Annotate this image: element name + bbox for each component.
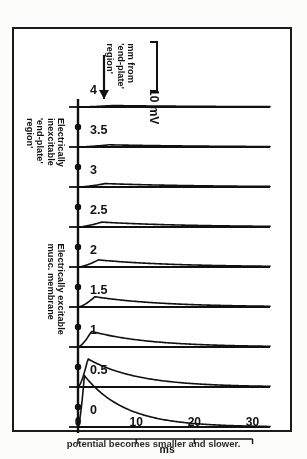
- trace-distance-label: 1: [90, 323, 97, 337]
- trace-distance-label: 2.5: [90, 203, 107, 217]
- caption-fragment: potential becomes smaller and slower.: [0, 438, 307, 449]
- distance-arrow-head: [99, 90, 109, 99]
- trace-distance-label: 4: [90, 83, 97, 97]
- scale-bar: [150, 42, 157, 91]
- region-inexcitable-line1: Electrically: [56, 118, 66, 167]
- electrode-marker: [75, 204, 81, 210]
- trace-distance-label: 0.5: [90, 363, 107, 377]
- epp-trace: [78, 332, 270, 347]
- distance-axis-line2: 'end-plate': [116, 43, 126, 89]
- region-inexcitable-line3: 'end-plate': [35, 118, 45, 164]
- region-inexcitable-line4: region': [25, 118, 35, 149]
- trace-distance-label: 0: [90, 403, 97, 417]
- electrode-marker: [75, 324, 81, 330]
- region-excitable-line2: musc. membrane: [46, 244, 56, 320]
- plot-area: 010203000.511.522.533.54 ms 10 mV mm fro…: [0, 0, 307, 459]
- epp-trace: [78, 260, 270, 267]
- electrode-marker: [75, 284, 81, 290]
- distance-axis-line3: region': [105, 43, 115, 74]
- scale-bar-label: 10 mV: [147, 89, 161, 124]
- distance-axis-line1: mm from: [126, 43, 136, 83]
- plot-graphics: 010203000.511.522.533.54: [0, 0, 307, 459]
- epp-trace: [78, 297, 270, 307]
- region-label-excitable: Electrically excitable musc. membrane: [45, 244, 66, 335]
- region-label-inexcitable: Electrically inexcitable 'end-plate' reg…: [24, 118, 66, 167]
- trace-distance-label: 3.5: [90, 123, 107, 137]
- rotated-scan-content: 010203000.511.522.533.54 ms 10 mV mm fro…: [0, 0, 307, 459]
- electrode-marker: [75, 404, 81, 410]
- region-inexcitable-line2: inexcitable: [46, 118, 56, 166]
- figure-page: 010203000.511.522.533.54 ms 10 mV mm fro…: [0, 0, 307, 459]
- trace-distance-label: 3: [90, 163, 97, 177]
- trace-distance-label: 1.5: [90, 283, 107, 297]
- distance-axis-caption: mm from 'end-plate' region': [105, 43, 136, 89]
- electrode-marker: [75, 244, 81, 250]
- electrode-marker: [75, 124, 81, 130]
- trace-distance-label: 2: [90, 243, 97, 257]
- electrode-marker: [75, 164, 81, 170]
- epp-trace: [78, 376, 270, 427]
- region-excitable-line1: Electrically excitable: [56, 244, 66, 335]
- electrode-marker: [75, 364, 81, 370]
